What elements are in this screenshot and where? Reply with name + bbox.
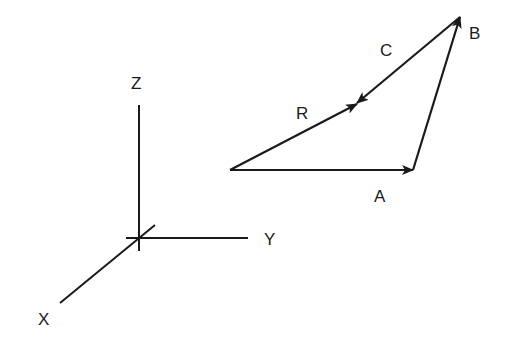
vector-c-label: C bbox=[380, 42, 392, 59]
x-axis-label: X bbox=[38, 311, 49, 328]
diagram-canvas bbox=[0, 0, 507, 343]
vector-b-label: B bbox=[469, 25, 480, 42]
vector-r bbox=[230, 104, 357, 170]
vector-diagram: Z Y X A B C R bbox=[0, 0, 507, 343]
vector-b bbox=[413, 17, 460, 170]
x-axis bbox=[60, 225, 155, 303]
y-axis-label: Y bbox=[264, 231, 275, 248]
vector-a-label: A bbox=[374, 188, 385, 205]
z-axis-label: Z bbox=[131, 75, 141, 92]
vector-c bbox=[357, 17, 460, 103]
vectors bbox=[230, 17, 460, 170]
vector-r-label: R bbox=[296, 105, 308, 122]
coordinate-axes bbox=[60, 105, 248, 303]
